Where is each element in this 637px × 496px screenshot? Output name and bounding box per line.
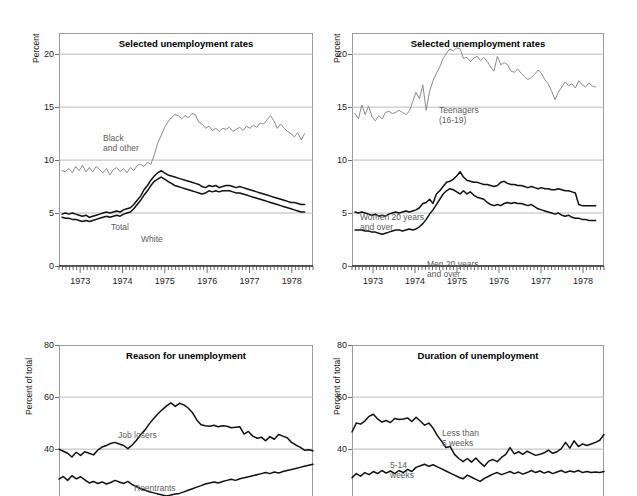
y-tick-mark — [55, 345, 59, 346]
plot-area-bottom-right: Duration of unemployment Less than 5 wee… — [352, 345, 604, 496]
y-tick-mark — [55, 213, 59, 214]
x-tick-label: 1973 — [363, 276, 383, 286]
plot-area-bottom-left: Reason for unemployment Job losersReentr… — [59, 345, 313, 496]
y-tick-mark — [55, 449, 59, 450]
y-tick-label: 15 — [44, 102, 54, 112]
white-label: White — [141, 235, 163, 245]
chart-canvas-bottom-left — [59, 345, 313, 496]
x-tick-label: 1974 — [405, 276, 425, 286]
y-tick-label: 0 — [49, 261, 54, 271]
y-tick-label: 40 — [337, 444, 347, 454]
y-tick-label: 80 — [44, 340, 54, 350]
x-tick-label: 1977 — [239, 276, 259, 286]
chart-canvas-top-left — [59, 33, 313, 266]
y-tick-label: 5 — [49, 208, 54, 218]
y-tick-mark — [55, 266, 59, 267]
y-tick-mark — [348, 266, 352, 267]
y-tick-label: 20 — [44, 49, 54, 59]
y-tick-mark — [348, 345, 352, 346]
panel-bottom-right: Percent of total Duration of unemploymen… — [320, 320, 637, 496]
y-tick-label: 60 — [44, 392, 54, 402]
women-20-and-over-label: Women 20 years and over — [360, 213, 424, 232]
y-axis-label: Percent — [31, 34, 41, 63]
y-tick-mark — [55, 107, 59, 108]
y-tick-label: 80 — [337, 340, 347, 350]
y-tick-label: 15 — [337, 102, 347, 112]
y-tick-mark — [348, 54, 352, 55]
x-tick-label: 1974 — [112, 276, 132, 286]
unemployment-statistics-figure: { "figure": { "background": "#ffffff", "… — [0, 0, 637, 496]
panel-bottom-left: Percent of total Reason for unemployment… — [0, 320, 320, 496]
x-tick-label: 1976 — [489, 276, 509, 286]
total-label: Total — [111, 223, 129, 233]
reentrants-label: Reentrants — [134, 484, 176, 494]
plot-area-top-right: Selected unemployment rates Teenagers (1… — [352, 33, 604, 266]
x-tick-label: 1975 — [155, 276, 175, 286]
teenagers-label: Teenagers (16-19) — [439, 106, 479, 125]
x-tick-label: 1975 — [447, 276, 467, 286]
y-tick-label: 0 — [342, 261, 347, 271]
y-tick-label: 20 — [337, 49, 347, 59]
y-tick-mark — [348, 449, 352, 450]
less-than-5-weeks-label: Less than 5 weeks — [442, 429, 479, 448]
five-to-fourteen-weeks-label: 5-14 weeks — [390, 461, 414, 480]
x-tick-label: 1978 — [282, 276, 302, 286]
job-losers-label: Job losers — [118, 431, 157, 441]
y-tick-mark — [348, 397, 352, 398]
black-and-other-label: Black and other — [103, 134, 139, 153]
y-axis-label: Percent of total — [24, 358, 34, 415]
y-tick-mark — [348, 213, 352, 214]
y-tick-mark — [348, 160, 352, 161]
y-tick-mark — [348, 107, 352, 108]
y-tick-mark — [55, 397, 59, 398]
plot-area-top-left: Selected unemployment rates Black and ot… — [59, 33, 313, 266]
x-tick-label: 1978 — [573, 276, 593, 286]
panel-top-left: Percent Selected unemployment rates Blac… — [0, 0, 320, 310]
y-tick-label: 10 — [337, 155, 347, 165]
y-tick-label: 60 — [337, 392, 347, 402]
y-tick-mark — [55, 54, 59, 55]
y-tick-label: 5 — [342, 208, 347, 218]
x-tick-label: 1976 — [197, 276, 217, 286]
y-tick-mark — [55, 160, 59, 161]
panel-top-right: Percent Selected unemployment rates Teen… — [320, 0, 637, 310]
x-tick-label: 1977 — [531, 276, 551, 286]
y-axis-label: Percent of total — [332, 358, 342, 415]
y-tick-label: 40 — [44, 444, 54, 454]
y-tick-label: 10 — [44, 155, 54, 165]
x-tick-label: 1973 — [70, 276, 90, 286]
